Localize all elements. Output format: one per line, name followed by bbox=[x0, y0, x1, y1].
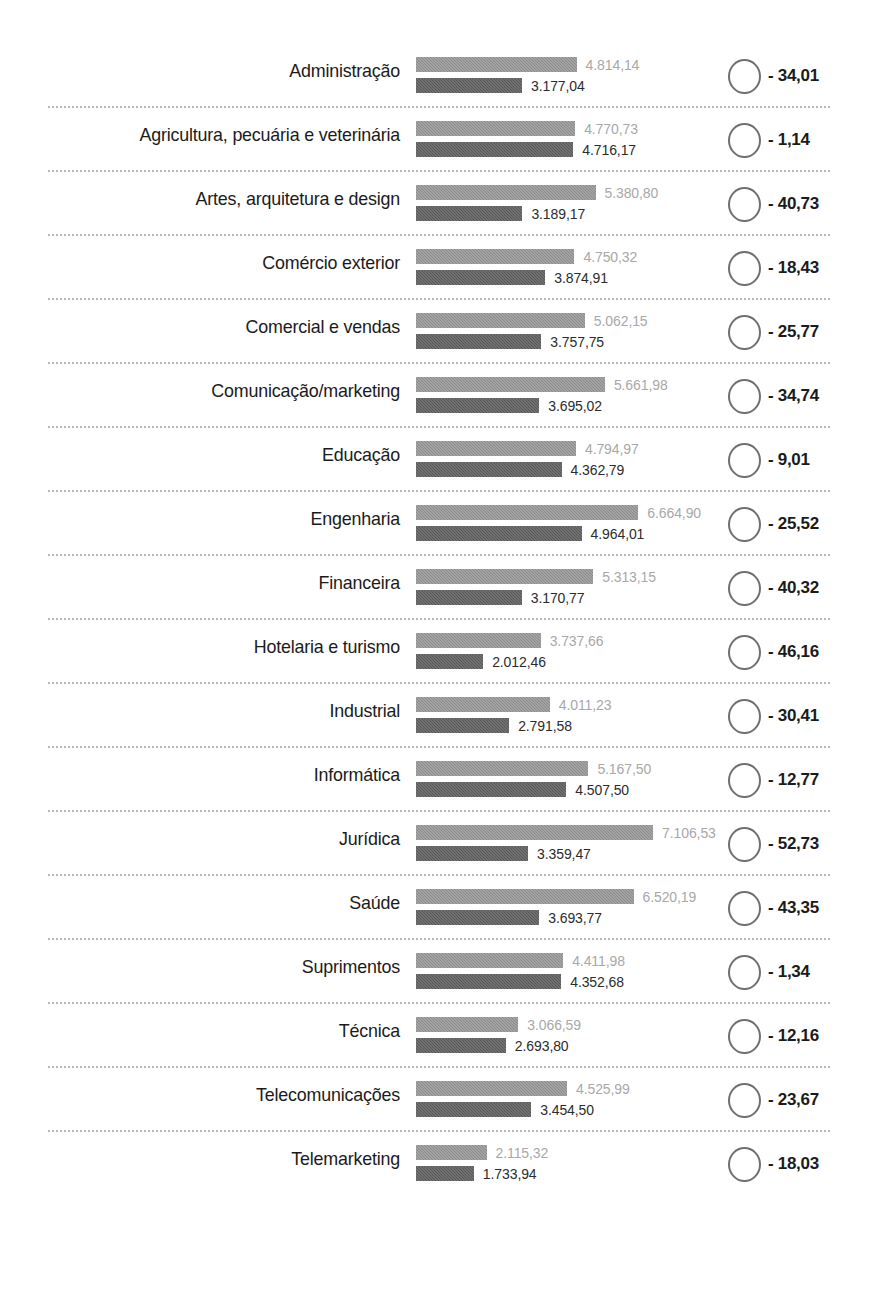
row-separator bbox=[48, 810, 830, 812]
variation-indicator: - 18,43 bbox=[728, 248, 819, 288]
bar-bottom bbox=[416, 526, 582, 541]
chart-row: Educação4.794,974.362,79- 9,01 bbox=[0, 426, 875, 490]
category-label: Comunicação/marketing bbox=[43, 380, 400, 402]
chart-row: Informática5.167,504.507,50- 12,77 bbox=[0, 746, 875, 810]
bar-row-bottom: 3.189,17 bbox=[416, 206, 585, 221]
chart-row: Técnica3.066,592.693,80- 12,16 bbox=[0, 1002, 875, 1066]
bar-top-value: 4.750,32 bbox=[583, 249, 637, 265]
bar-row-bottom: 1.733,94 bbox=[416, 1166, 537, 1181]
bar-group: 3.737,662.012,46 bbox=[416, 630, 756, 674]
variation-percent: - 43,35 bbox=[768, 898, 819, 918]
bar-row-top: 3.066,59 bbox=[416, 1017, 581, 1032]
variation-percent: - 40,73 bbox=[768, 194, 819, 214]
circle-icon bbox=[728, 1147, 761, 1182]
variation-percent: - 30,41 bbox=[768, 706, 819, 726]
bar-group: 4.750,323.874,91 bbox=[416, 246, 756, 290]
category-label: Técnica bbox=[43, 1020, 400, 1042]
chart-row: Comunicação/marketing5.661,983.695,02- 3… bbox=[0, 362, 875, 426]
variation-percent: - 1,14 bbox=[768, 130, 810, 150]
chart-row: Agricultura, pecuária e veterinária4.770… bbox=[0, 106, 875, 170]
category-label: Telecomunicações bbox=[43, 1084, 400, 1106]
bar-bottom bbox=[416, 1166, 474, 1181]
bar-bottom bbox=[416, 974, 561, 989]
variation-percent: - 25,77 bbox=[768, 322, 819, 342]
variation-percent: - 40,32 bbox=[768, 578, 819, 598]
circle-icon bbox=[728, 1083, 761, 1118]
bar-row-top: 5.062,15 bbox=[416, 313, 648, 328]
chart-row: Industrial4.011,232.791,58- 30,41 bbox=[0, 682, 875, 746]
bar-bottom-value: 3.170,77 bbox=[531, 590, 585, 606]
variation-indicator: - 30,41 bbox=[728, 696, 819, 736]
row-separator bbox=[48, 426, 830, 428]
bar-bottom-value: 3.359,47 bbox=[537, 846, 591, 862]
bar-row-top: 4.011,23 bbox=[416, 697, 611, 712]
bar-bottom bbox=[416, 270, 545, 285]
bar-group: 5.380,803.189,17 bbox=[416, 182, 756, 226]
circle-icon bbox=[728, 891, 761, 926]
bar-bottom bbox=[416, 398, 539, 413]
bar-group: 6.664,904.964,01 bbox=[416, 502, 756, 546]
variation-indicator: - 1,14 bbox=[728, 120, 810, 160]
bar-top-value: 6.664,90 bbox=[647, 505, 701, 521]
chart-row: Saúde6.520,193.693,77- 43,35 bbox=[0, 874, 875, 938]
circle-icon bbox=[728, 763, 761, 798]
bar-top-value: 4.011,23 bbox=[559, 697, 612, 713]
row-separator bbox=[48, 618, 830, 620]
circle-icon bbox=[728, 379, 761, 414]
chart-row: Administração4.814,143.177,04- 34,01 bbox=[0, 42, 875, 106]
row-separator bbox=[48, 170, 830, 172]
variation-indicator: - 18,03 bbox=[728, 1144, 819, 1184]
bar-row-bottom: 3.874,91 bbox=[416, 270, 608, 285]
bar-bottom bbox=[416, 846, 528, 861]
bar-row-top: 4.794,97 bbox=[416, 441, 639, 456]
circle-icon bbox=[728, 1019, 761, 1054]
bar-bottom bbox=[416, 78, 522, 93]
bar-top bbox=[416, 121, 575, 136]
bar-row-top: 3.737,66 bbox=[416, 633, 603, 648]
bar-row-bottom: 4.352,68 bbox=[416, 974, 624, 989]
bar-top-value: 7.106,53 bbox=[662, 825, 716, 841]
bar-top bbox=[416, 825, 653, 840]
bar-top-value: 4.770,73 bbox=[584, 121, 638, 137]
category-label: Saúde bbox=[43, 892, 400, 914]
bar-row-bottom: 4.716,17 bbox=[416, 142, 636, 157]
bar-row-bottom: 4.964,01 bbox=[416, 526, 644, 541]
bar-bottom-value: 2.012,46 bbox=[492, 654, 546, 670]
bar-group: 2.115,321.733,94 bbox=[416, 1142, 756, 1186]
bar-top bbox=[416, 1017, 518, 1032]
variation-percent: - 52,73 bbox=[768, 834, 819, 854]
bar-row-bottom: 2.693,80 bbox=[416, 1038, 569, 1053]
row-separator bbox=[48, 1130, 830, 1132]
circle-icon bbox=[728, 955, 761, 990]
chart-row: Engenharia6.664,904.964,01- 25,52 bbox=[0, 490, 875, 554]
chart-row: Telemarketing2.115,321.733,94- 18,03 bbox=[0, 1130, 875, 1194]
bar-top bbox=[416, 313, 585, 328]
variation-indicator: - 12,77 bbox=[728, 760, 819, 800]
chart-row: Telecomunicações4.525,993.454,50- 23,67 bbox=[0, 1066, 875, 1130]
circle-icon bbox=[728, 443, 761, 478]
row-separator bbox=[48, 490, 830, 492]
bar-top bbox=[416, 953, 563, 968]
circle-icon bbox=[728, 315, 761, 350]
bar-group: 5.167,504.507,50 bbox=[416, 758, 756, 802]
bar-bottom bbox=[416, 718, 509, 733]
bar-row-bottom: 3.359,47 bbox=[416, 846, 591, 861]
bar-row-bottom: 3.695,02 bbox=[416, 398, 602, 413]
bar-bottom bbox=[416, 1038, 506, 1053]
bar-bottom-value: 3.757,75 bbox=[550, 334, 604, 350]
circle-icon bbox=[728, 571, 761, 606]
bar-top bbox=[416, 377, 605, 392]
variation-percent: - 12,77 bbox=[768, 770, 819, 790]
bar-top bbox=[416, 697, 550, 712]
bar-row-top: 4.750,32 bbox=[416, 249, 637, 264]
row-separator bbox=[48, 1066, 830, 1068]
bar-top bbox=[416, 441, 576, 456]
variation-indicator: - 40,73 bbox=[728, 184, 819, 224]
category-label: Agricultura, pecuária e veterinária bbox=[43, 124, 400, 146]
category-label: Suprimentos bbox=[43, 956, 400, 978]
bar-bottom-value: 3.177,04 bbox=[531, 78, 585, 94]
circle-icon bbox=[728, 251, 761, 286]
chart-row: Financeira5.313,153.170,77- 40,32 bbox=[0, 554, 875, 618]
bar-row-top: 4.814,14 bbox=[416, 57, 639, 72]
variation-percent: - 46,16 bbox=[768, 642, 819, 662]
